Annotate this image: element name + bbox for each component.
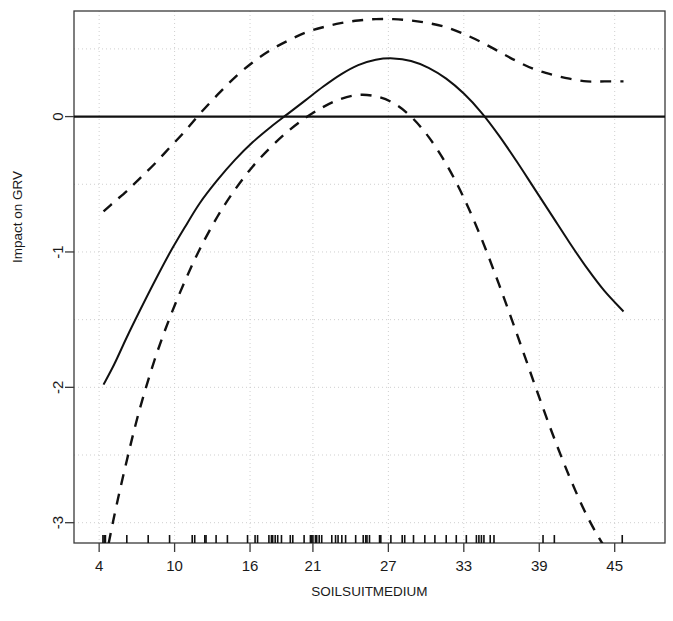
x-tick-label: 10 xyxy=(166,557,183,574)
x-tick-label: 33 xyxy=(455,557,472,574)
y-tick-label: -2 xyxy=(50,381,67,394)
chart-canvas: 410162127333945 0-1-2-3 SOILSUITMEDIUM I… xyxy=(0,0,673,621)
x-tick-label: 21 xyxy=(305,557,322,574)
x-tick-label: 39 xyxy=(531,557,548,574)
y-tick-label: 0 xyxy=(50,112,67,120)
partial-effect-plot: 410162127333945 0-1-2-3 SOILSUITMEDIUM I… xyxy=(0,0,673,621)
plot-background xyxy=(0,0,673,621)
x-axis-label: SOILSUITMEDIUM xyxy=(311,584,427,599)
y-tick-label: -3 xyxy=(50,516,67,529)
x-tick-label: 16 xyxy=(242,557,259,574)
x-tick-label: 4 xyxy=(95,557,103,574)
y-axis-label: Impact on GRV xyxy=(10,171,25,263)
y-tick-label: -1 xyxy=(50,245,67,258)
x-tick-label: 27 xyxy=(380,557,397,574)
x-tick-label: 45 xyxy=(606,557,623,574)
